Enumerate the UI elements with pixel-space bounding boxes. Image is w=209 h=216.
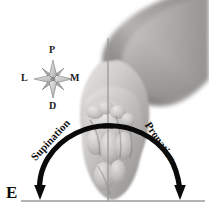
panel-letter: E	[6, 184, 18, 201]
rotation-arrows	[0, 0, 209, 216]
compass-label-medial: M	[70, 73, 79, 83]
pronation-arrow	[104, 126, 186, 200]
compass-label-distal: D	[49, 101, 56, 111]
compass-label-lateral: L	[21, 73, 28, 83]
compass-label-proximal: P	[49, 45, 55, 55]
figure-panel-supination-pronation: P L M D Supination Pronation E	[0, 0, 209, 216]
